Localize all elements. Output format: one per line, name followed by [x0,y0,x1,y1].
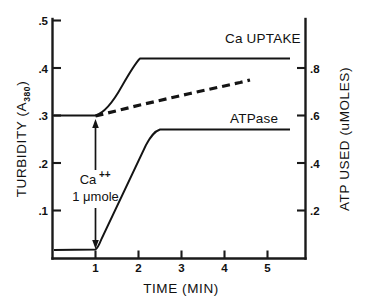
left-tick-label-0.1: .1 [38,205,48,217]
annotation-arrow-up-head [92,119,99,128]
x-tick-label-4: 4 [221,262,228,274]
right-tick-label-0.4: .4 [310,158,320,170]
chart-canvas: .5 .4 .3 .2 .1 .8 .6 .4 .2 1 [0,0,370,305]
right-tick-label-0.2: .2 [310,205,320,217]
left-tick-label-0.4: .4 [38,63,48,75]
annotation-ca-superscript: ++ [99,169,111,180]
x-tick-label-2: 2 [135,262,141,274]
right-axis-ticks [297,68,306,211]
series-dashed-baseline [96,80,251,116]
left-tick-label-0.2: .2 [38,158,48,170]
chart-figure: .5 .4 .3 .2 .1 .8 .6 .4 .2 1 [0,0,370,305]
series-ca-uptake [54,59,290,116]
annotation-amount-label: 1 μmole [72,189,119,204]
ca-uptake-label-group: Ca UPTAKE [225,31,301,46]
left-axis-title: TURBIDITY (A380) [14,81,32,198]
atpase-label-group: ATPase [230,111,278,126]
right-axis-title: ATP USED (uMOLES) [337,67,352,211]
right-tick-label-0.8: .8 [310,63,320,75]
x-tick-label-3: 3 [178,262,184,274]
left-tick-label-0.3: .3 [38,110,48,122]
left-tick-label-0.5: .5 [38,15,48,27]
left-axis-title-group: TURBIDITY (A380) [14,81,32,198]
x-axis-title: TIME (MIN) [143,281,219,296]
annotation-ca-label: Ca [80,172,97,187]
x-tick-label-1: 1 [92,262,99,274]
right-tick-label-0.6: .6 [310,110,320,122]
ca-addition-annotation: Ca ++ 1 μmole [72,119,119,249]
left-axis-tick-labels: .5 .4 .3 .2 .1 [38,15,48,217]
series-label-atpase: ATPase [230,111,278,126]
x-axis-tick-labels: 1 2 3 4 5 [92,262,271,274]
right-axis-tick-labels: .8 .6 .4 .2 [310,63,320,218]
left-axis-title-tail: ) [14,81,29,86]
left-axis-title-main: TURBIDITY (A [14,102,29,197]
right-axis-title-group: ATP USED (uMOLES) [337,67,352,211]
axis-group [53,19,306,259]
left-axis-title-subscript: 380 [22,86,32,102]
series-label-ca-uptake: Ca UPTAKE [225,31,301,46]
x-tick-label-5: 5 [264,262,271,274]
